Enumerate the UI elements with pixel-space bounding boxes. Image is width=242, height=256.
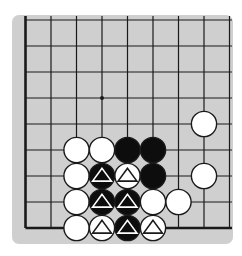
white-stone-icon	[64, 137, 89, 162]
white-stone-icon	[64, 189, 89, 214]
white-stone-icon	[64, 215, 89, 240]
black-stone	[140, 137, 165, 162]
white-stone	[64, 189, 89, 214]
white-stone-icon	[191, 111, 216, 136]
black-stone-marked	[115, 189, 140, 214]
white-stone-icon	[166, 189, 191, 214]
black-stone-icon	[140, 137, 165, 162]
black-stone-marked	[89, 163, 114, 188]
white-stone-icon	[89, 137, 114, 162]
white-stone	[140, 189, 165, 214]
black-stone	[115, 137, 140, 162]
white-stone	[64, 137, 89, 162]
white-stone	[89, 137, 114, 162]
white-stone-marked	[89, 215, 114, 240]
white-stone	[166, 189, 191, 214]
white-stone	[191, 163, 216, 188]
white-stone-marked	[115, 163, 140, 188]
white-stone-icon	[64, 163, 89, 188]
white-stone	[191, 111, 216, 136]
white-stone-icon	[140, 189, 165, 214]
star-point-icon	[100, 96, 104, 100]
go-board	[0, 0, 242, 256]
white-stone-marked	[140, 215, 165, 240]
black-stone	[140, 163, 165, 188]
white-stone	[64, 163, 89, 188]
black-stone-icon	[140, 163, 165, 188]
black-stone-icon	[115, 137, 140, 162]
star-points	[100, 96, 104, 100]
black-stone-marked	[115, 215, 140, 240]
black-stone-marked	[89, 189, 114, 214]
white-stone-icon	[191, 163, 216, 188]
go-board-diagram	[0, 0, 242, 256]
white-stone	[64, 215, 89, 240]
